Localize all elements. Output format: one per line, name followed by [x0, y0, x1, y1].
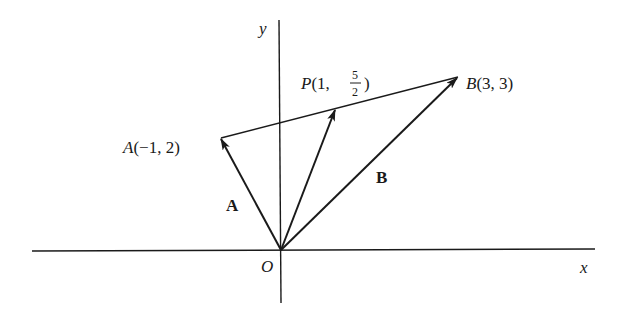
vector-b-label: B — [376, 168, 387, 187]
vector-a-arrow — [221, 139, 281, 250]
point-p-name: P — [300, 74, 311, 93]
point-b-label: B(3, 3) — [466, 74, 513, 93]
point-a-coords: (−1, 2) — [133, 138, 179, 157]
point-p-coords-open: (1, — [311, 74, 329, 93]
point-b-name: B — [466, 74, 477, 93]
vector-a-label: A — [226, 196, 239, 215]
point-b-coords: (3, 3) — [476, 74, 513, 93]
y-axis — [279, 20, 281, 303]
segment-ab — [221, 77, 458, 138]
point-p-frac-denominator: 2 — [352, 85, 358, 99]
vector-p-arrow — [281, 110, 335, 250]
point-a-label: A(−1, 2) — [122, 138, 180, 157]
point-p-label: P(1, — [300, 74, 330, 93]
x-axis — [32, 249, 595, 251]
point-p-coords-close: ) — [364, 74, 370, 93]
point-p-frac-numerator: 5 — [352, 68, 358, 82]
y-axis-label: y — [257, 19, 267, 38]
origin-label: O — [261, 257, 273, 276]
x-axis-label: x — [579, 258, 588, 277]
vector-diagram: y x O A(−1, 2) P(1, 5 2 ) B(3, 3) A B — [0, 0, 625, 311]
vector-b-arrow — [281, 78, 457, 250]
point-a-name: A — [122, 138, 134, 157]
